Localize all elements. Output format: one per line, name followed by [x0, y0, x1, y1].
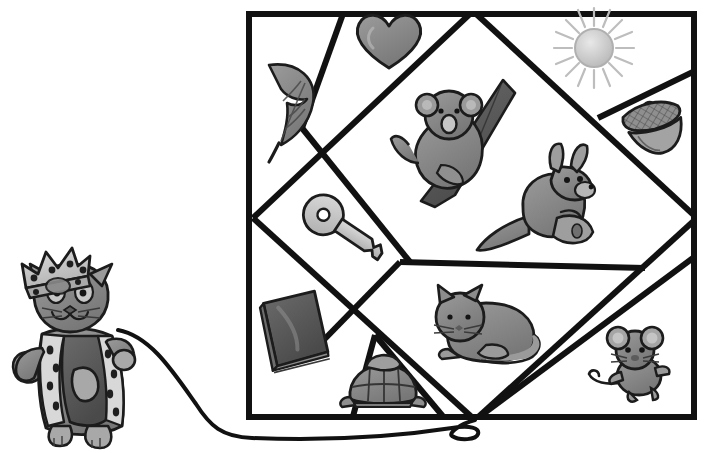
mouse-icon [589, 327, 669, 402]
royal-cat [13, 248, 135, 448]
kite-scene: Cat flying a kite with picture panels ca… [0, 0, 707, 453]
koala-icon [391, 80, 515, 207]
kangaroo-icon [477, 144, 595, 251]
cat-icon [434, 285, 539, 363]
divider-cat-upper [400, 262, 645, 268]
book-icon [259, 290, 331, 373]
sun-icon [554, 8, 634, 88]
scene-canvas [0, 0, 707, 453]
key-icon [296, 187, 393, 270]
heart-icon [357, 15, 420, 68]
leaf-icon [269, 64, 314, 162]
